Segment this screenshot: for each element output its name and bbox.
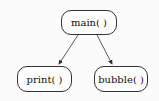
node-bubble: bubble( )	[94, 66, 148, 92]
node-bubble-label: bubble( )	[98, 74, 144, 85]
node-print: print( )	[17, 66, 72, 92]
node-print-label: print( )	[27, 74, 63, 85]
edge-main-print	[59, 35, 78, 64]
edge-main-bubble	[97, 35, 112, 64]
node-main-label: main( )	[71, 17, 107, 28]
node-main: main( )	[61, 10, 117, 35]
